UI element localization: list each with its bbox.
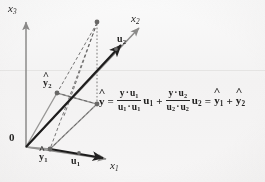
axis-label-x3: x3 bbox=[8, 3, 17, 16]
point-y bbox=[95, 20, 100, 25]
point-label-yhat1: y1 bbox=[39, 152, 47, 163]
axis-label-x1: x1 bbox=[110, 160, 119, 173]
term1-denominator: u1·u1 bbox=[117, 100, 141, 113]
origin-label: 0 bbox=[9, 132, 15, 143]
projection-formula: y = y·u1 u1·u1 u1 + y·u2 u2·u2 u2 = bbox=[98, 88, 246, 113]
term2-denominator: u2·u2 bbox=[166, 100, 190, 113]
term1-numerator: y·u1 bbox=[119, 88, 140, 100]
term1-multiplier: u1 bbox=[143, 94, 153, 108]
formula-equals: = bbox=[108, 95, 114, 107]
formula-lhs: y bbox=[99, 95, 104, 107]
formula-plus: + bbox=[156, 95, 162, 107]
term2-numerator: y·u2 bbox=[167, 88, 188, 100]
u1-tip-marker bbox=[77, 151, 81, 155]
construction-lines bbox=[50, 23, 97, 149]
dashed-y-to-yhat2 bbox=[57, 23, 97, 93]
point-yhat2 bbox=[55, 91, 60, 96]
u2-tip-marker bbox=[114, 47, 118, 51]
dashed-y-to-yhat1 bbox=[50, 23, 97, 149]
vector-label-u2: u2 bbox=[117, 34, 126, 45]
formula-plus2: + bbox=[227, 95, 233, 107]
term2-multiplier: u2 bbox=[192, 94, 202, 108]
formula-equals2: = bbox=[205, 95, 211, 107]
point-label-yhat2: y2 bbox=[43, 78, 51, 89]
axis-label-x2: x2 bbox=[131, 13, 140, 26]
point-yhat1 bbox=[48, 147, 53, 152]
formula-sum1: y1 bbox=[214, 94, 223, 108]
formula-term2-fraction: y·u2 u2·u2 bbox=[166, 88, 190, 113]
projection-figure: x3 x2 x1 0 u1 u2 y1 y2 y = y·u1 u1·u1 bbox=[0, 0, 265, 182]
formula-sum2: y2 bbox=[236, 94, 245, 108]
formula-term1-fraction: y·u1 u1·u1 bbox=[117, 88, 141, 113]
vector-label-u1: u1 bbox=[71, 156, 80, 167]
